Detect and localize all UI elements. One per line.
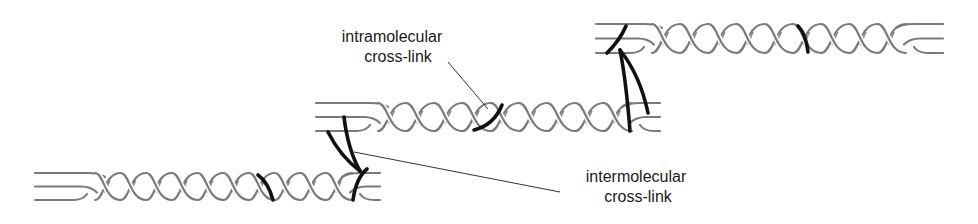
strand-tail-right — [630, 117, 660, 123]
intermolecular-cross-link-lower-middle-b — [328, 132, 360, 171]
labels: intramolecular cross-link intermolecular… — [342, 28, 687, 205]
collagen-crosslink-diagram: intramolecular cross-link intermolecular… — [0, 0, 978, 224]
intermolecular-leader-line — [354, 152, 560, 192]
intermolecular-label-line2: cross-link — [604, 188, 673, 205]
strand-tail-right — [640, 125, 660, 131]
intramolecular-leader-line — [448, 62, 488, 109]
strand-tail-right — [360, 194, 380, 200]
strand-tail-left — [316, 117, 380, 123]
intramolecular-label-line1: intramolecular — [342, 28, 443, 45]
strand-tail-right — [904, 39, 943, 45]
intermolecular-label-line1: intermolecular — [586, 168, 687, 185]
strand-tail-left — [35, 194, 87, 200]
strand-tail-left — [596, 39, 654, 45]
strand-tail-left — [316, 125, 370, 131]
intramolecular-label-line2: cross-link — [364, 48, 433, 65]
strand-tail-right — [914, 47, 943, 53]
lower-triple-helix — [35, 173, 380, 200]
strand-tail-left — [35, 187, 97, 193]
middle-triple-helix — [316, 103, 660, 131]
upper-triple-helix — [596, 24, 943, 53]
